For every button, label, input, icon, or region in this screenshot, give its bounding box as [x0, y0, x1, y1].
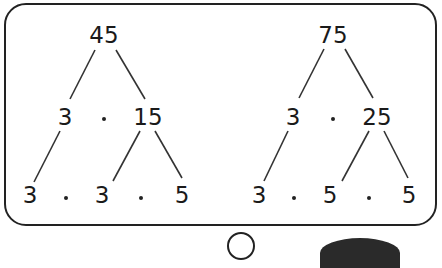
tree2-root: 75 [318, 24, 347, 47]
thought-bubble-circle [227, 232, 255, 260]
tree2-leaf-1: 3 [252, 184, 267, 207]
multiply-dot [64, 196, 68, 200]
tree1-leaf-3: 5 [175, 184, 190, 207]
character-head [320, 238, 400, 268]
multiply-dot [139, 196, 143, 200]
tree1-root: 45 [89, 24, 118, 47]
tree2-level1-left: 3 [286, 106, 301, 129]
tree2-leaf-2: 5 [323, 184, 338, 207]
tree1-leaf-2: 3 [95, 184, 110, 207]
multiply-dot [292, 196, 296, 200]
tree2-leaf-3: 5 [402, 184, 417, 207]
multiply-dot [102, 117, 106, 121]
multiply-dot [367, 196, 371, 200]
tree1-level1-right: 15 [133, 106, 162, 129]
multiply-dot [331, 117, 335, 121]
tree1-level1-left: 3 [58, 106, 73, 129]
tree1-leaf-1: 3 [23, 184, 38, 207]
tree2-level1-right: 25 [362, 106, 391, 129]
